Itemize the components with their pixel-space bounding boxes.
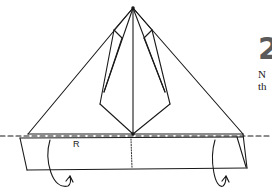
left-flap: [100, 8, 133, 134]
origami-diagram: R: [0, 0, 272, 195]
right-flap: [133, 8, 170, 134]
step-instruction: N th: [258, 68, 267, 92]
outer-triangle: [28, 8, 243, 134]
edge-label: R: [73, 139, 80, 149]
base-center-dotted: [131, 139, 132, 168]
right-fold-arrow-icon: [213, 140, 229, 186]
step-number: 2: [258, 34, 272, 64]
left-fold-arrow-icon: [48, 140, 73, 186]
step-text-line-2: th: [258, 80, 267, 92]
apex-point: [132, 7, 134, 9]
center-point: [132, 133, 134, 135]
step-text-line-1: N: [258, 68, 267, 80]
